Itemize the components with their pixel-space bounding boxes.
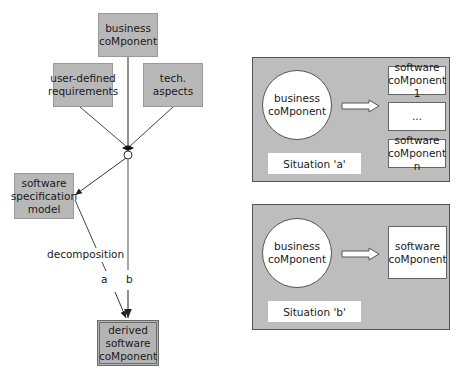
software-component-1-box: software coMponent 1: [388, 66, 446, 95]
situation-b-panel: business coMponent software coMponent Si…: [252, 204, 450, 330]
situation-b-business-component-circle: business coMponent: [262, 218, 332, 288]
software-specification-model-box: software specification model: [14, 173, 74, 219]
situation-a-panel: business coMponent software coMponent 1 …: [252, 57, 450, 182]
line-decomposition-upper: [75, 200, 97, 250]
situation-b-block-arrow-icon: [341, 247, 381, 261]
line-tech-to-junction: [129, 107, 173, 147]
line-requirements-to-junction: [80, 107, 127, 147]
junction-diamond-icon: [122, 145, 134, 151]
situation-a-business-component-circle: business coMponent: [262, 70, 332, 140]
software-component-n-box: software coMponent n: [388, 139, 446, 168]
junction-circle-icon: [124, 151, 132, 159]
path-a-label: a: [101, 273, 107, 285]
situation-b-software-component-box: software coMponent: [388, 226, 447, 279]
situation-a-caption: Situation 'a': [268, 153, 361, 174]
arrow-to-spec-model: [75, 158, 126, 195]
derived-software-component-box: derived software coMponent: [97, 320, 159, 366]
business-component-box: business coMponent: [98, 13, 158, 57]
path-b-label: b: [126, 273, 133, 285]
decomposition-label: decomposition: [46, 248, 125, 260]
tech-aspects-box: tech. aspects: [143, 63, 203, 107]
software-component-ellipsis-box: ...: [388, 102, 446, 131]
situation-b-caption: Situation 'b': [268, 301, 361, 322]
situation-a-block-arrow-icon: [341, 99, 381, 113]
arrow-path-a-lower: [115, 292, 126, 318]
line-decomposition-middle: [102, 262, 106, 271]
user-defined-requirements-box: user-defined requirements: [53, 63, 113, 107]
